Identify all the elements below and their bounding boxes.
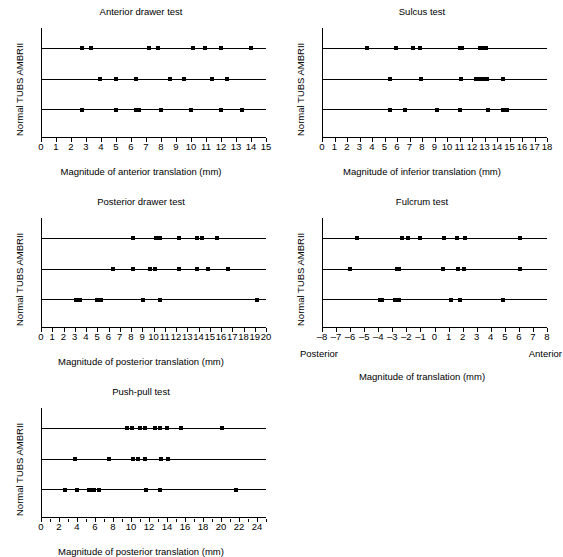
x-axis-tick-label: 13	[231, 142, 242, 152]
data-point	[455, 236, 459, 240]
data-point	[463, 236, 467, 240]
x-axis-tick-label: 9	[173, 142, 178, 152]
data-point	[137, 108, 141, 112]
data-point	[131, 457, 135, 461]
data-point	[411, 46, 415, 50]
x-axis-tick-label: 3	[72, 332, 77, 342]
x-axis-tick-label: 10	[442, 142, 453, 152]
data-point	[355, 236, 359, 240]
data-point	[179, 426, 183, 430]
x-axis-tick-label: 7	[530, 332, 535, 342]
data-point	[143, 426, 147, 430]
data-point	[226, 267, 230, 271]
x-axis-tick-label: 1	[332, 142, 337, 152]
data-point	[156, 46, 160, 50]
x-axis-line	[41, 137, 266, 138]
data-point	[419, 77, 423, 81]
x-axis-tick-label: 17	[227, 332, 238, 342]
x-axis-tick-label: 3	[83, 142, 88, 152]
x-axis-tick-label: 15	[261, 142, 272, 152]
data-point	[435, 108, 439, 112]
data-point	[177, 236, 181, 240]
x-axis-tick-label: 22	[234, 522, 245, 532]
x-axis-label: Magnitude of translation (mm)	[281, 371, 563, 382]
data-point	[131, 236, 135, 240]
x-axis-tick	[158, 519, 159, 522]
data-point	[219, 108, 223, 112]
category-line-normal	[322, 299, 547, 300]
panel-posterior-drawer-test: Posterior drawer test Normal TUBS AMBRII…	[0, 196, 282, 381]
data-point	[249, 46, 253, 50]
x-axis-tick-label: 1	[446, 332, 451, 342]
x-axis-tick-label: 2	[68, 142, 73, 152]
axis-end-label-posterior: Posterior	[300, 348, 338, 359]
y-axis-line	[322, 28, 323, 138]
x-axis-tick-label: 3	[357, 142, 362, 152]
x-axis-tick-label: 20	[216, 522, 227, 532]
y-axis-label: Normal TUBS AMBRII	[14, 423, 25, 516]
data-point	[114, 77, 118, 81]
x-axis-tick-label: 2	[344, 142, 349, 152]
x-axis-tick-label: 18	[198, 522, 209, 532]
x-axis-tick	[194, 519, 195, 522]
plot-area: 0123456789101112131415	[41, 28, 266, 138]
data-point	[225, 77, 229, 81]
data-point	[147, 46, 151, 50]
axis-end-labels: Posterior Anterior	[300, 348, 562, 360]
data-point	[166, 457, 170, 461]
x-axis-tick-label: 6	[128, 142, 133, 152]
data-point	[219, 46, 223, 50]
x-axis-tick-label: 12	[171, 332, 182, 342]
data-point	[165, 426, 169, 430]
x-axis-tick-label: 10	[126, 522, 137, 532]
category-line-ambrii	[322, 48, 547, 49]
x-axis-tick	[122, 519, 123, 522]
data-point	[99, 298, 103, 302]
y-axis-label: Normal TUBS AMBRII	[14, 233, 25, 326]
data-point	[131, 267, 135, 271]
x-axis-tick-label: 7	[407, 142, 412, 152]
data-point	[380, 298, 384, 302]
x-axis-tick-label: 6	[516, 332, 521, 342]
x-axis-tick-label: 18	[238, 332, 249, 342]
data-point	[159, 457, 163, 461]
x-axis-tick-label: –7	[331, 332, 342, 342]
data-point	[449, 298, 453, 302]
x-axis-tick-label: 11	[160, 332, 170, 342]
x-axis-tick-label: 19	[249, 332, 260, 342]
x-axis-tick	[50, 519, 51, 522]
data-point	[418, 236, 422, 240]
y-axis-line	[322, 218, 323, 328]
x-axis-tick-label: 20	[261, 332, 272, 342]
plot-area: 024681012141618202224	[41, 408, 266, 518]
category-line-tubs	[41, 79, 266, 80]
x-axis-tick-label: 24	[252, 522, 263, 532]
data-point	[111, 267, 115, 271]
data-point	[73, 457, 77, 461]
x-axis-tick-label: 4	[369, 142, 374, 152]
x-axis-tick	[230, 519, 231, 522]
x-axis-tick	[104, 519, 105, 522]
data-point	[501, 77, 505, 81]
x-axis-tick-label: 0	[319, 142, 324, 152]
data-point	[505, 108, 509, 112]
x-axis-tick-label: 8	[158, 142, 163, 152]
data-point	[195, 236, 199, 240]
x-axis-tick-label: 7	[143, 142, 148, 152]
data-point	[158, 298, 162, 302]
y-axis-label: Normal TUBS AMBRII	[295, 233, 306, 326]
y-axis-line	[41, 408, 42, 518]
x-axis-tick-label: 12	[467, 142, 478, 152]
x-axis-tick-label: 16	[216, 332, 227, 342]
data-point	[153, 267, 157, 271]
x-axis-tick-label: 15	[504, 142, 515, 152]
x-axis-tick-label: 2	[56, 522, 61, 532]
data-point	[195, 267, 199, 271]
x-axis-tick-label: 16	[517, 142, 528, 152]
data-point	[501, 298, 505, 302]
data-point	[80, 108, 84, 112]
y-axis-label: Normal TUBS AMBRII	[14, 43, 25, 136]
x-axis-tick-label: 4	[74, 522, 79, 532]
x-axis-tick-label: 11	[455, 142, 465, 152]
x-axis-tick-label: 10	[186, 142, 197, 152]
